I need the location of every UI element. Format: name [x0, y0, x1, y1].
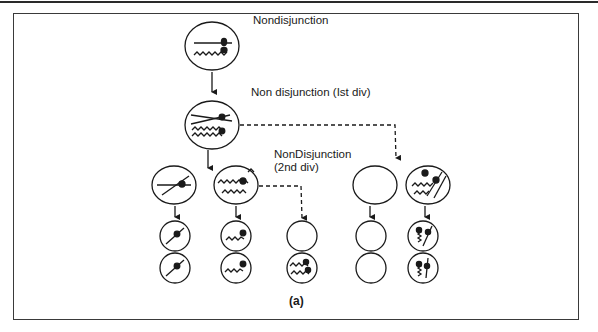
- gamete-5: [287, 221, 317, 251]
- gamete-1: [160, 221, 190, 251]
- gamete-8: [356, 253, 386, 283]
- second-division-label-line1: NonDisjunction: [274, 148, 351, 161]
- parent-cell: [185, 22, 239, 70]
- gamete-3: [221, 221, 251, 251]
- gamete-2: [160, 253, 190, 283]
- figure-caption: (a): [289, 294, 304, 308]
- meiosis-2-cell-a: [152, 166, 196, 204]
- meiosis-2-cell-b: [214, 166, 258, 204]
- gamete-10: [408, 253, 438, 283]
- meiosis-2-cell-d: [406, 166, 450, 204]
- title-label: Nondisjunction: [253, 14, 328, 27]
- dashed-arrow-2nd-div: [259, 186, 302, 218]
- gamete-6: [287, 253, 317, 283]
- meiosis-1-cell: [185, 101, 239, 149]
- gamete-9: [408, 221, 438, 251]
- second-division-label-line2: (2nd div): [274, 161, 319, 174]
- meiosis-2-cell-c: [353, 166, 397, 204]
- first-division-label: Non disjunction (Ist div): [251, 86, 371, 99]
- gamete-7: [356, 221, 386, 251]
- gamete-4: [221, 253, 251, 283]
